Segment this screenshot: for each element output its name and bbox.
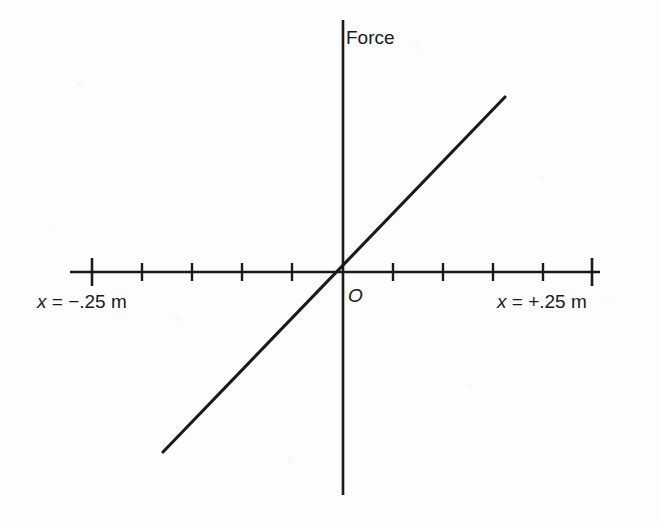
right-label-variable: x	[497, 291, 507, 312]
force-displacement-figure: Force O x = −.25 m x = +.25 m	[0, 0, 661, 522]
right-label-value: = +.25 m	[512, 291, 587, 312]
x-axis-right-endpoint-label: x = +.25 m	[497, 292, 587, 311]
left-label-variable: x	[37, 291, 47, 312]
force-line	[163, 97, 505, 452]
y-axis-label: Force	[346, 28, 395, 47]
left-label-value: = −.25 m	[52, 291, 127, 312]
plot-canvas	[0, 0, 661, 522]
x-axis-left-endpoint-label: x = −.25 m	[37, 292, 127, 311]
origin-label: O	[348, 286, 363, 305]
